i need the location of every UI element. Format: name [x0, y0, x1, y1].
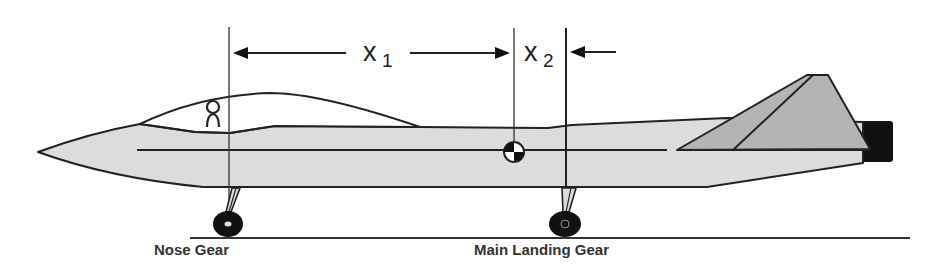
nose-gear [213, 188, 243, 237]
arrow-right-icon [495, 47, 510, 59]
arrow-left-icon [233, 47, 248, 59]
x2-subscript: 2 [543, 50, 554, 71]
main-gear-label: Main Landing Gear [474, 241, 609, 258]
aircraft-diagram: x 1 x 2 Nose Gear Main Landing Gear [0, 0, 938, 270]
x1-subscript: 1 [382, 50, 393, 71]
canopy [140, 93, 420, 127]
main-landing-gear [549, 188, 581, 237]
main-wheel [549, 211, 581, 237]
x1-symbol: x [363, 37, 377, 67]
x2-dimension: x 2 [524, 37, 616, 71]
center-of-gravity-icon [504, 142, 524, 162]
x1-dimension: x 1 [233, 37, 510, 71]
svg-text:x 1: x 1 [363, 37, 393, 71]
x2-symbol: x [524, 37, 538, 67]
nose-gear-label: Nose Gear [154, 241, 229, 258]
svg-text:x 2: x 2 [524, 37, 554, 71]
